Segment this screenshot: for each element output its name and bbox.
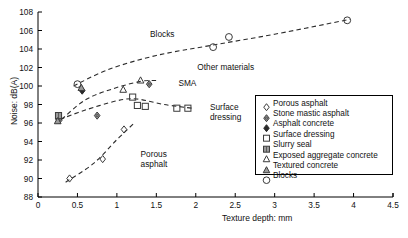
y-tick-label: 94 (11, 137, 33, 147)
legend-marker-icon (261, 140, 272, 150)
legend-item-label: Porous asphalt (273, 99, 328, 108)
data-point (146, 81, 152, 88)
legend-item-label: Textured concrete (273, 161, 338, 170)
data-point (120, 86, 127, 92)
x-tick-label: 1 (104, 200, 130, 210)
data-point (55, 113, 61, 119)
legend-marker-icon (261, 129, 272, 139)
legend-item-label: Asphalt concrete (273, 119, 334, 128)
legend-list: Porous asphaltStone mastic asphaltAsphal… (256, 96, 378, 181)
annotation-blocks: Blocks (150, 29, 174, 39)
data-point (134, 102, 140, 108)
figure-root: Noise: dB(A) Texture depth: mm 889092949… (0, 0, 408, 238)
annotation-other-materials: Other materials (197, 62, 254, 72)
legend-item[interactable]: Porous asphalt (261, 98, 378, 108)
legend-item[interactable]: Blocks (261, 171, 378, 181)
annotation-sma: SMA (178, 78, 196, 88)
legend-marker-icon (261, 150, 272, 160)
y-tick-label: 96 (11, 118, 33, 128)
y-tick-label: 104 (11, 44, 33, 54)
annotation-surface-dressing: Surfacedressing (210, 102, 241, 122)
x-tick-label: 3 (262, 200, 288, 210)
legend-item[interactable]: Surface dressing (261, 129, 378, 139)
legend-item-label: Surface dressing (273, 130, 334, 139)
y-tick-label: 92 (11, 155, 33, 165)
x-tick-label: 1.5 (143, 200, 169, 210)
y-tick-label: 108 (11, 7, 33, 17)
legend-marker-icon (261, 171, 272, 181)
x-tick-label: 0.5 (64, 200, 90, 210)
data-point (225, 34, 232, 41)
x-tick-label: 3.5 (301, 200, 327, 210)
legend-item[interactable]: Stone mastic asphalt (261, 108, 378, 118)
legend-item-label: Stone mastic asphalt (273, 109, 349, 118)
x-tick-label: 4.5 (380, 200, 406, 210)
legend-item-label: Slurry seal (273, 140, 312, 149)
x-tick-label: 2.5 (222, 200, 248, 210)
legend-item[interactable]: Textured concrete (261, 160, 378, 170)
x-axis-title-text: Texture depth: mm (222, 213, 292, 223)
y-tick-label: 100 (11, 81, 33, 91)
y-tick-label: 98 (11, 100, 33, 110)
data-point (142, 103, 148, 109)
y-tick-label: 106 (11, 26, 33, 36)
legend-item[interactable]: Exposed aggregate concrete (261, 150, 378, 160)
legend-marker-icon (261, 161, 272, 171)
legend-box: Porous asphaltStone mastic asphaltAsphal… (255, 95, 393, 175)
data-point (137, 77, 144, 83)
data-point (100, 155, 106, 162)
data-point (94, 112, 100, 119)
y-tick-label: 90 (11, 174, 33, 184)
legend-item-label: Exposed aggregate concrete (273, 151, 378, 160)
x-tick-label: 4 (341, 200, 367, 210)
legend-marker-icon (261, 119, 272, 129)
x-tick-label: 0 (25, 200, 51, 210)
legend-item[interactable]: Asphalt concrete (261, 119, 378, 129)
legend-item-label: Blocks (273, 171, 297, 180)
legend-marker-icon (261, 109, 272, 119)
legend-item[interactable]: Slurry seal (261, 140, 378, 150)
legend-marker-icon (261, 98, 272, 108)
y-tick-label: 102 (11, 63, 33, 73)
annotation-porous-asphalt: Porousasphalt (141, 149, 168, 169)
x-tick-label: 2 (183, 200, 209, 210)
